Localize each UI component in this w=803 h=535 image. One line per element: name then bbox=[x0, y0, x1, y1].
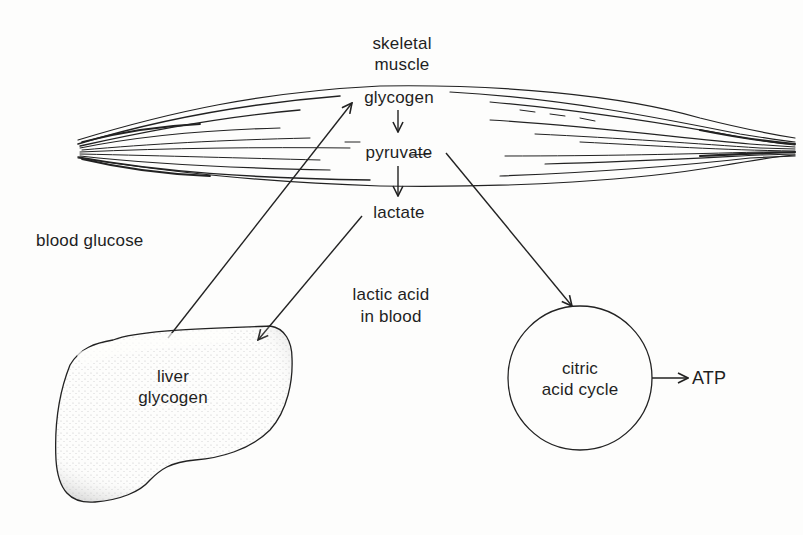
label-lactate: lactate bbox=[364, 203, 434, 223]
label-lactic-acid: lactic acid bbox=[336, 285, 446, 305]
liver-shape bbox=[56, 326, 293, 502]
label-muscle-glycogen: glycogen bbox=[356, 88, 442, 108]
label-in-blood: in blood bbox=[336, 307, 446, 327]
label-liver-glycogen-word: glycogen bbox=[128, 388, 218, 408]
label-citric: citric bbox=[525, 359, 635, 379]
label-blood-glucose: blood glucose bbox=[36, 231, 144, 251]
label-muscle: muscle bbox=[360, 55, 444, 75]
label-acid-cycle: acid cycle bbox=[525, 380, 635, 400]
label-pyruvate: pyruvate bbox=[354, 143, 444, 163]
arrow-liver-to-muscle-glycogen bbox=[168, 103, 352, 338]
label-atp: ATP bbox=[692, 368, 726, 388]
label-skeletal-muscle: skeletal muscle bbox=[360, 34, 444, 75]
label-citric-acid-cycle: citric acid cycle bbox=[525, 359, 635, 400]
label-lactic-acid-in-blood: lactic acid in blood bbox=[336, 285, 446, 327]
label-liver-glycogen: liver glycogen bbox=[128, 367, 218, 408]
label-skeletal: skeletal bbox=[360, 34, 444, 54]
label-liver: liver bbox=[128, 367, 218, 387]
diagram-canvas bbox=[0, 0, 803, 535]
